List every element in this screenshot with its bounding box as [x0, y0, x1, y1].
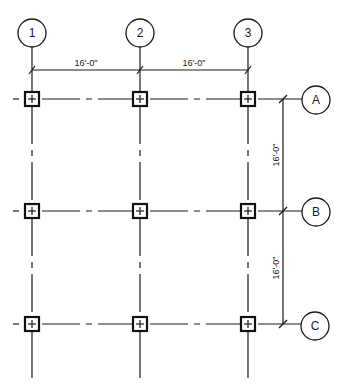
grid-bubble-c-label: C: [311, 319, 320, 333]
column-marker-b1: [25, 204, 39, 218]
row-bubbles: A B C: [301, 86, 330, 340]
grid-bubble-2-label: 2: [137, 26, 144, 40]
row-gridlines: [13, 99, 302, 324]
column-marker-a1: [25, 92, 39, 106]
dimension-label-b-c: 16'-0": [271, 257, 281, 280]
dimension-label-a-b: 16'-0": [271, 144, 281, 167]
column-marker-b2: [133, 204, 147, 218]
column-marker-c1: [25, 317, 39, 331]
column-marker-a2: [133, 92, 147, 106]
column-marker-c2: [133, 317, 147, 331]
column-marker-c3: [241, 317, 255, 331]
grid-bubble-1-label: 1: [29, 26, 36, 40]
dimension-label-1-2: 16'-0": [75, 58, 98, 68]
dimension-label-2-3: 16'-0": [183, 58, 206, 68]
column-marker-a3: [241, 92, 255, 106]
grid-bubble-b-label: B: [312, 205, 320, 219]
grid-bubble-a-label: A: [312, 93, 320, 107]
column-bubbles: 1 2 3: [18, 19, 262, 47]
column-marker-b3: [241, 204, 255, 218]
grid-bubble-3-label: 3: [245, 26, 252, 40]
grid-plan-drawing: 16'-0" 16'-0" 16'-0" 16'-0" 1 2 3 A: [0, 0, 346, 392]
